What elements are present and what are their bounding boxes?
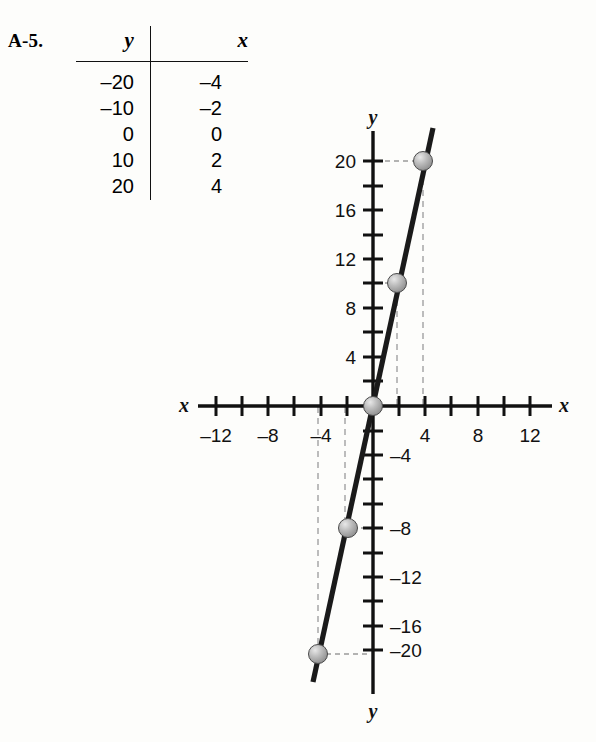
value-table-grid: y x –20 –4 –10 –2 0 0 10	[76, 26, 248, 200]
x-tick-label: –4	[310, 425, 332, 446]
y-tick-label: –12	[390, 567, 422, 588]
y-axis-label-bottom: y	[367, 700, 378, 723]
guide-lines	[318, 161, 423, 654]
table-row: –10 –2	[76, 96, 248, 122]
data-point-marker	[309, 645, 328, 664]
table-row: –20 –4	[76, 62, 248, 96]
y-axis-ticks	[363, 161, 383, 650]
y-tick-label: 16	[335, 200, 356, 221]
x-axis-label-left: x	[178, 394, 189, 416]
cell-y: 20	[76, 174, 150, 200]
x-tick-label: 8	[473, 425, 484, 446]
x-tick-label: 12	[519, 425, 540, 446]
data-point-marker	[388, 274, 407, 293]
x-axis-tick-labels: –12 –8 –4 4 8 12	[200, 425, 540, 446]
cell-x: 0	[150, 122, 248, 148]
y-tick-label: 4	[345, 347, 356, 368]
y-tick-label: –4	[390, 445, 412, 466]
data-points	[309, 152, 433, 664]
x-tick-label: 4	[420, 425, 431, 446]
cell-y: 10	[76, 148, 150, 174]
y-tick-label: 12	[335, 249, 356, 270]
table-header-row: y x	[76, 26, 248, 62]
y-tick-label: –16	[390, 616, 422, 637]
data-point-marker	[414, 152, 433, 171]
table-row: 0 0	[76, 122, 248, 148]
y-tick-label: –20	[390, 640, 422, 661]
plot-line	[313, 128, 433, 682]
value-table-head: y x	[76, 26, 248, 62]
cell-y: 0	[76, 122, 150, 148]
table-row: 20 4	[76, 174, 248, 200]
cell-x: –2	[150, 96, 248, 122]
x-axis-ticks	[216, 396, 530, 416]
value-table-body: –20 –4 –10 –2 0 0 10 2 20 4	[76, 62, 248, 200]
axes	[198, 131, 552, 694]
cell-x: 2	[150, 148, 248, 174]
cell-y: –10	[76, 96, 150, 122]
worksheet-page: A-5. y x –20 –4 –10 –2 0	[0, 0, 596, 742]
column-header-x: x	[150, 26, 248, 62]
value-table: y x –20 –4 –10 –2 0 0 10	[76, 26, 248, 200]
y-tick-label: –8	[390, 518, 411, 539]
column-header-y: y	[76, 26, 150, 62]
table-row: 10 2	[76, 148, 248, 174]
data-point-marker	[364, 397, 383, 416]
y-tick-label: 20	[335, 151, 356, 172]
x-axis-label-right: x	[558, 394, 569, 416]
cell-y: –20	[76, 62, 150, 96]
data-point-marker	[339, 519, 358, 538]
problem-label: A-5.	[8, 30, 43, 52]
y-axis-tick-labels: 20 16 12 8 4 –4 –8 –12 –16 –20	[335, 151, 422, 661]
y-tick-label: 8	[345, 298, 356, 319]
cell-x: –4	[150, 62, 248, 96]
cell-x: 4	[150, 174, 248, 200]
x-tick-label: –12	[200, 425, 232, 446]
y-axis-label-top: y	[367, 106, 378, 129]
x-tick-label: –8	[257, 425, 278, 446]
